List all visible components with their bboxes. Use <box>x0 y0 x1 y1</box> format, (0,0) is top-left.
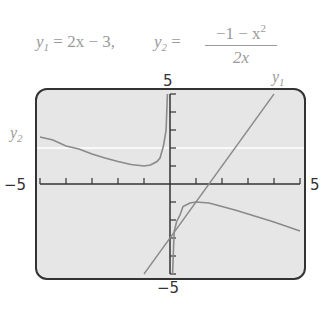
y1-curve-label: y1 <box>272 68 285 86</box>
y2-curve-label: y2 <box>10 124 23 142</box>
graph-screen <box>0 0 334 309</box>
xmax-label: 5 <box>310 176 320 194</box>
ymin-label: −5 <box>157 279 179 297</box>
xmin-label: −5 <box>4 176 26 194</box>
ymax-label: 5 <box>163 72 173 90</box>
